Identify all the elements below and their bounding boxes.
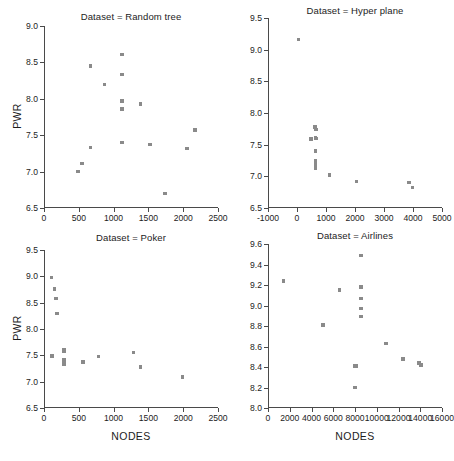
x-axis-line xyxy=(268,407,442,408)
x-tick-label: 2000 xyxy=(345,213,364,223)
data-point xyxy=(53,287,56,290)
x-tick xyxy=(148,208,149,212)
data-point xyxy=(314,149,317,152)
data-point xyxy=(359,254,362,257)
x-tick xyxy=(420,408,421,412)
data-point xyxy=(139,102,142,105)
data-point xyxy=(417,361,420,364)
y-tick-label: 7.0 xyxy=(4,377,38,387)
y-tick-label: 7.0 xyxy=(228,171,262,181)
x-tick xyxy=(384,208,385,212)
x-tick-label: 2500 xyxy=(208,213,227,223)
data-point xyxy=(353,364,356,367)
data-point xyxy=(384,342,387,345)
y-tick-label: 8.0 xyxy=(4,94,38,104)
x-tick-label: 1000 xyxy=(104,413,123,423)
x-tick xyxy=(79,408,80,412)
x-axis-line xyxy=(44,207,218,208)
data-point xyxy=(419,363,422,366)
data-point xyxy=(62,350,65,353)
x-tick-label: 0 xyxy=(295,213,300,223)
panel-title: Dataset = Poker xyxy=(44,232,218,243)
data-point xyxy=(120,73,123,76)
data-point xyxy=(62,363,65,366)
x-axis-title: NODES xyxy=(268,430,442,442)
data-point xyxy=(338,288,341,291)
x-tick-label: 1500 xyxy=(139,213,158,223)
x-tick-label: 12000 xyxy=(387,413,411,423)
data-point xyxy=(163,192,166,195)
data-point xyxy=(103,83,106,86)
data-point xyxy=(314,136,317,139)
data-point xyxy=(328,173,331,176)
data-point xyxy=(120,141,123,144)
x-tick-label: 4000 xyxy=(302,413,321,423)
x-tick-label: 14000 xyxy=(408,413,432,423)
y-tick-label: 7.5 xyxy=(4,350,38,360)
x-tick xyxy=(290,408,291,412)
x-tick-label: 1000 xyxy=(104,213,123,223)
data-point xyxy=(309,137,312,140)
data-point xyxy=(89,146,92,149)
data-point xyxy=(359,315,362,318)
y-tick-label: 8.8 xyxy=(228,321,262,331)
x-tick-label: 3000 xyxy=(374,213,393,223)
data-point xyxy=(54,297,57,300)
panel-title: Dataset = Hyper plane xyxy=(268,5,442,16)
data-point xyxy=(62,358,65,361)
data-point xyxy=(321,323,324,326)
y-tick-label: 9.0 xyxy=(4,271,38,281)
data-point xyxy=(120,141,123,144)
data-point xyxy=(359,307,362,310)
data-point xyxy=(181,375,184,378)
y-tick-label: 8.5 xyxy=(4,298,38,308)
data-point xyxy=(314,165,317,168)
y-tick-label: 7.0 xyxy=(4,167,38,177)
x-tick xyxy=(413,208,414,212)
data-point xyxy=(120,99,123,102)
y-tick xyxy=(264,81,268,82)
plot-area: 02000400060008000100001200014000160008.0… xyxy=(268,244,442,408)
data-point xyxy=(185,147,188,150)
x-tick-label: 10000 xyxy=(365,413,389,423)
data-point xyxy=(120,107,123,110)
x-tick-label: 2000 xyxy=(280,413,299,423)
plot-area: -10000100020003000400050006.57.07.58.08.… xyxy=(268,18,442,208)
data-point xyxy=(80,162,83,165)
y-tick-label: 6.5 xyxy=(4,203,38,213)
x-tick xyxy=(297,208,298,212)
data-point xyxy=(353,386,356,389)
y-tick xyxy=(40,208,44,209)
y-tick-label: 9.5 xyxy=(228,13,262,23)
y-tick-label: 9.4 xyxy=(228,260,262,270)
data-point xyxy=(148,143,151,146)
data-point xyxy=(314,159,317,162)
x-tick-label: 1000 xyxy=(316,213,335,223)
y-tick xyxy=(40,382,44,383)
x-tick xyxy=(355,408,356,412)
data-point xyxy=(50,354,53,357)
y-tick xyxy=(264,208,268,209)
x-tick xyxy=(183,408,184,412)
y-tick xyxy=(264,347,268,348)
data-point xyxy=(407,181,410,184)
data-point xyxy=(120,53,123,56)
y-tick-label: 9.6 xyxy=(228,239,262,249)
y-tick-label: 8.6 xyxy=(228,342,262,352)
x-tick-label: 500 xyxy=(72,413,86,423)
y-tick xyxy=(40,62,44,63)
x-tick-label: 8000 xyxy=(345,413,364,423)
y-tick-label: 6.5 xyxy=(228,203,262,213)
data-point xyxy=(89,64,92,67)
y-tick-label: 8.5 xyxy=(228,76,262,86)
y-tick xyxy=(264,285,268,286)
x-tick-label: -1000 xyxy=(257,213,279,223)
data-point xyxy=(359,297,362,300)
y-tick-label: 8.2 xyxy=(228,383,262,393)
data-point xyxy=(97,355,100,358)
